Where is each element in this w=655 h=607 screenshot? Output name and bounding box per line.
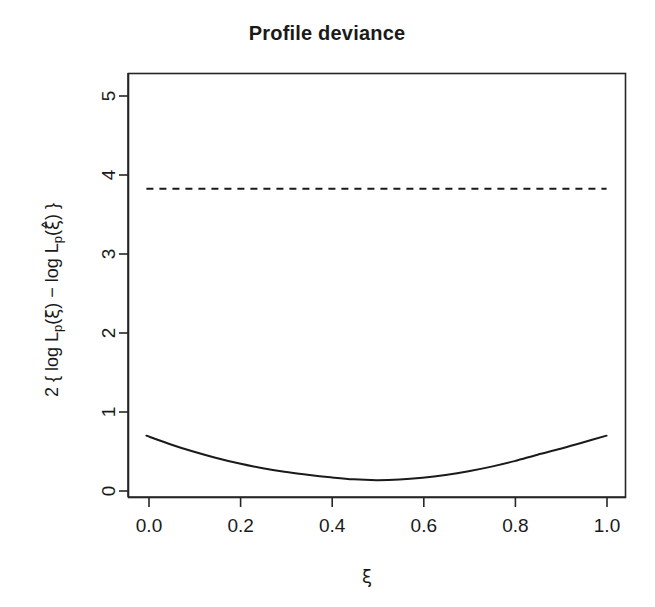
svg-text:2 { log Lp(ξ) − log Lp(ξ̂) }: 2 { log Lp(ξ) − log Lp(ξ̂) } [40,203,64,397]
chart-title: Profile deviance [249,22,406,44]
y-title-xi-hat: ξ̂ [40,220,62,230]
y-tick-label: 4 [98,169,119,180]
x-tick-label: 0.0 [136,515,162,536]
chart-canvas: Profile deviance 5 4 3 [0,0,655,607]
x-tick-label: 0.8 [502,515,528,536]
y-title-part-3: ) − log L [42,243,62,309]
y-title-part-5: ) } [42,203,62,220]
x-tick-label: 0.2 [227,515,253,536]
profile-deviance-figure: Profile deviance 5 4 3 [0,0,655,607]
y-tick-label: 1 [98,407,119,418]
y-tick-label: 5 [98,91,119,102]
y-axis-title: 2 { log Lp(ξ) − log Lp(ξ̂) } [40,203,64,397]
y-tick-label: 0 [98,486,119,497]
y-title-xi-1: ξ [42,309,63,319]
y-tick-label: 2 [98,328,119,339]
x-tick-label: 1.0 [594,515,620,536]
y-tick-label: 3 [98,249,119,260]
y-title-sub-1: p [50,325,65,332]
y-title-part-1: 2 { log L [42,332,62,397]
y-title-sub-2: p [50,236,65,243]
x-axis-title: ξ [362,566,372,587]
x-tick-label: 0.6 [411,515,437,536]
x-tick-label: 0.4 [319,515,346,536]
